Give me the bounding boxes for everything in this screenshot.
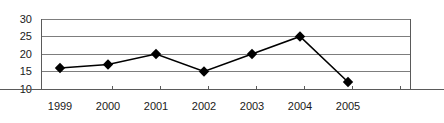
x-axis-tick-label-2001: 2001: [144, 101, 168, 112]
x-axis-tick-labels: 1999 2000 2001 2002 2003 2004 2005: [40, 0, 412, 123]
line-chart: 30 25 20 15 10: [0, 0, 444, 123]
x-axis-tick-label-2002: 2002: [192, 101, 216, 112]
x-axis-tick-label-2003: 2003: [240, 101, 264, 112]
x-axis-tick-label-2004: 2004: [288, 101, 312, 112]
x-axis-tick-label-1999: 1999: [48, 101, 72, 112]
x-axis-tick-label-2000: 2000: [96, 101, 120, 112]
x-axis-tick-label-2005: 2005: [336, 101, 360, 112]
